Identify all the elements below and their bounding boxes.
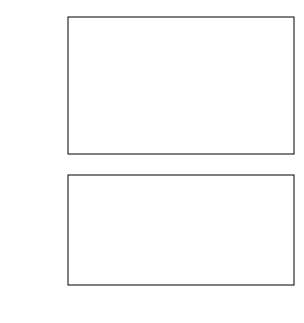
- two-panel-scatter-figure: [0, 0, 304, 323]
- bottom-panel-frame: [68, 175, 294, 285]
- figure-container: [0, 0, 304, 323]
- top-panel: [22, 17, 294, 154]
- bottom-panel: [33, 175, 294, 285]
- top-panel-frame: [68, 17, 294, 154]
